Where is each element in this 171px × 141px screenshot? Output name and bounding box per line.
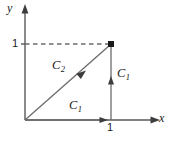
- x-axis-label: x: [159, 112, 164, 124]
- curve-label-c1-horizontal-letter: C: [69, 98, 77, 112]
- endpoint-1-1-marker: [108, 41, 114, 47]
- curve-label-c2-letter: C: [52, 58, 60, 72]
- curve-label-c1-vertical-subscript: 1: [126, 72, 130, 82]
- vector-path-diagram: y x 1 1 C2 C1 C1: [0, 0, 171, 141]
- curve-label-c2: C2: [52, 59, 65, 72]
- diagram-canvas: [0, 0, 171, 141]
- curve-label-c2-subscript: 2: [61, 64, 65, 74]
- curve-label-c1-vertical: C1: [117, 67, 130, 80]
- y-axis-label: y: [7, 2, 12, 14]
- c2-diagonal-arrowhead: [76, 71, 86, 79]
- curve-label-c1-horizontal-subscript: 1: [78, 104, 82, 114]
- curve-label-c1-vertical-letter: C: [117, 66, 125, 80]
- curve-label-c1-horizontal: C1: [69, 99, 82, 112]
- c2-diagonal-segment: [25, 45, 110, 120]
- c1-vertical-arrowhead: [108, 76, 114, 85]
- y-axis-arrowhead: [22, 4, 29, 14]
- y-axis-tick-label-1: 1: [12, 38, 18, 49]
- x-axis-tick-label-1: 1: [107, 122, 113, 133]
